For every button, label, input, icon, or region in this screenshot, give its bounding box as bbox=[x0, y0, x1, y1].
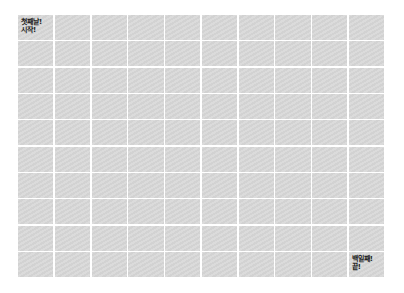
day-cell-50 bbox=[349, 120, 384, 145]
day-cell-53 bbox=[92, 147, 127, 172]
day-cell-10 bbox=[349, 15, 384, 40]
day-cell-21 bbox=[18, 68, 53, 93]
day-cell-24 bbox=[128, 68, 163, 93]
day-cell-96 bbox=[202, 252, 237, 277]
day-cell-12 bbox=[55, 41, 90, 66]
day-cell-17 bbox=[239, 41, 274, 66]
day-cell-13 bbox=[92, 41, 127, 66]
day-cell-74 bbox=[128, 199, 163, 224]
day-cell-32 bbox=[55, 94, 90, 119]
day-cell-83 bbox=[92, 226, 127, 251]
day-cell-61 bbox=[18, 173, 53, 198]
day-cell-39 bbox=[312, 94, 347, 119]
day-cell-44 bbox=[128, 120, 163, 145]
day-cell-3 bbox=[92, 15, 127, 40]
day-cell-46 bbox=[202, 120, 237, 145]
day-cell-7 bbox=[239, 15, 274, 40]
day-cell-41 bbox=[18, 120, 53, 145]
day-cell-15 bbox=[165, 41, 200, 66]
day-cell-98 bbox=[275, 252, 310, 277]
day-cell-88 bbox=[275, 226, 310, 251]
day-cell-37 bbox=[239, 94, 274, 119]
day-cell-36 bbox=[202, 94, 237, 119]
day-cell-87 bbox=[239, 226, 274, 251]
day-cell-35 bbox=[165, 94, 200, 119]
day-cell-64 bbox=[128, 173, 163, 198]
day-cell-86 bbox=[202, 226, 237, 251]
day-cell-62 bbox=[55, 173, 90, 198]
day-cell-38 bbox=[275, 94, 310, 119]
day-cell-40 bbox=[349, 94, 384, 119]
day-cell-81 bbox=[18, 226, 53, 251]
day-cell-58 bbox=[275, 147, 310, 172]
day-cell-91 bbox=[18, 252, 53, 277]
day-cell-14 bbox=[128, 41, 163, 66]
day-cell-34 bbox=[128, 94, 163, 119]
day-cell-63 bbox=[92, 173, 127, 198]
day-cell-65 bbox=[165, 173, 200, 198]
day-cell-80 bbox=[349, 199, 384, 224]
day-cell-71 bbox=[18, 199, 53, 224]
day-cell-16 bbox=[202, 41, 237, 66]
day-cell-47 bbox=[239, 120, 274, 145]
day-cell-84 bbox=[128, 226, 163, 251]
day-cell-76 bbox=[202, 199, 237, 224]
day-cell-55 bbox=[165, 147, 200, 172]
day-cell-52 bbox=[55, 147, 90, 172]
day-cell-66 bbox=[202, 173, 237, 198]
day-cell-78 bbox=[275, 199, 310, 224]
day-cell-56 bbox=[202, 147, 237, 172]
day-cell-85 bbox=[165, 226, 200, 251]
day-cell-20 bbox=[349, 41, 384, 66]
day-cell-33 bbox=[92, 94, 127, 119]
day-cell-5 bbox=[165, 15, 200, 40]
day-cell-30 bbox=[349, 68, 384, 93]
day-cell-90 bbox=[349, 226, 384, 251]
day-cell-11 bbox=[18, 41, 53, 66]
day-cell-31 bbox=[18, 94, 53, 119]
hundred-day-grid: 첫째날! 시작!백일째! 끝! bbox=[18, 15, 384, 277]
day-cell-82 bbox=[55, 226, 90, 251]
day-cell-79 bbox=[312, 199, 347, 224]
day-cell-57 bbox=[239, 147, 274, 172]
day-cell-49 bbox=[312, 120, 347, 145]
day-cell-60 bbox=[349, 147, 384, 172]
day-cell-59 bbox=[312, 147, 347, 172]
day-cell-28 bbox=[275, 68, 310, 93]
day-cell-93 bbox=[92, 252, 127, 277]
day-cell-54 bbox=[128, 147, 163, 172]
end-label: 백일째! 끝! bbox=[352, 255, 373, 271]
day-cell-4 bbox=[128, 15, 163, 40]
day-cell-2 bbox=[55, 15, 90, 40]
day-cell-43 bbox=[92, 120, 127, 145]
day-cell-99 bbox=[312, 252, 347, 277]
day-cell-69 bbox=[312, 173, 347, 198]
day-cell-94 bbox=[128, 252, 163, 277]
day-cell-23 bbox=[92, 68, 127, 93]
day-cell-68 bbox=[275, 173, 310, 198]
day-cell-45 bbox=[165, 120, 200, 145]
day-cell-1: 첫째날! 시작! bbox=[18, 15, 53, 40]
day-cell-42 bbox=[55, 120, 90, 145]
day-cell-67 bbox=[239, 173, 274, 198]
day-cell-77 bbox=[239, 199, 274, 224]
day-cell-73 bbox=[92, 199, 127, 224]
day-cell-27 bbox=[239, 68, 274, 93]
day-cell-75 bbox=[165, 199, 200, 224]
day-cell-92 bbox=[55, 252, 90, 277]
day-cell-6 bbox=[202, 15, 237, 40]
day-cell-95 bbox=[165, 252, 200, 277]
day-cell-89 bbox=[312, 226, 347, 251]
start-label: 첫째날! 시작! bbox=[21, 18, 42, 34]
day-cell-25 bbox=[165, 68, 200, 93]
day-cell-22 bbox=[55, 68, 90, 93]
day-cell-48 bbox=[275, 120, 310, 145]
day-cell-70 bbox=[349, 173, 384, 198]
day-cell-18 bbox=[275, 41, 310, 66]
day-cell-51 bbox=[18, 147, 53, 172]
day-cell-26 bbox=[202, 68, 237, 93]
day-cell-9 bbox=[312, 15, 347, 40]
day-cell-72 bbox=[55, 199, 90, 224]
day-cell-8 bbox=[275, 15, 310, 40]
day-cell-19 bbox=[312, 41, 347, 66]
